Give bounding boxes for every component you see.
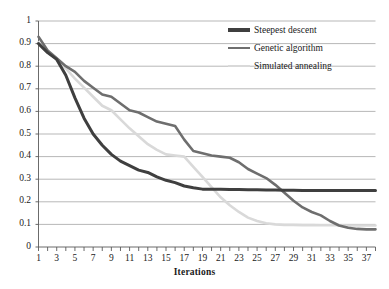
y-axis-tick-label: 0.5	[3, 128, 31, 138]
y-axis-tick-label: 0.3	[3, 173, 31, 183]
legend-item: Steepest descent	[228, 25, 317, 35]
legend-item: Genetic algorithm	[228, 43, 323, 53]
chart-plot-area	[0, 0, 389, 289]
y-axis-tick-label: 0.9	[3, 37, 31, 47]
y-axis-tick-label: 0.7	[3, 82, 31, 92]
legend-label: Steepest descent	[254, 25, 317, 35]
legend-label: Genetic algorithm	[254, 43, 323, 53]
x-axis-title: Iterations	[0, 267, 389, 277]
y-axis-tick-label: 0.2	[3, 195, 31, 205]
legend-color-swatch	[228, 47, 250, 50]
legend-item: Simulated annealing	[228, 61, 332, 71]
y-axis-tick-label: 0.4	[3, 150, 31, 160]
y-axis-tick-label: 1	[3, 15, 31, 25]
y-axis-tick-label: 0.6	[3, 105, 31, 115]
legend-color-swatch	[228, 28, 250, 31]
legend-color-swatch	[228, 65, 250, 68]
y-axis-tick-label: 0.1	[3, 218, 31, 228]
chart-container: 00.10.20.30.40.50.60.70.80.91 1357911131…	[0, 0, 389, 289]
y-axis-tick-label: 0	[3, 241, 31, 251]
x-axis-tick-label: 37	[355, 253, 377, 263]
y-axis-tick-label: 0.8	[3, 60, 31, 70]
legend-label: Simulated annealing	[254, 61, 332, 71]
